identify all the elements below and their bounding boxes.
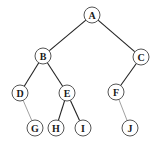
edge-b-d [24, 63, 39, 86]
binary-tree-diagram: ABCDEFGHIJ [0, 0, 162, 148]
edge-f-j [119, 99, 127, 120]
node-label: F [113, 87, 119, 98]
node-label: C [137, 52, 144, 63]
edge-d-g [23, 100, 32, 120]
tree-node-d: D [12, 85, 28, 101]
edge-e-i [70, 100, 79, 120]
edge-a-c [98, 20, 135, 52]
edge-c-f [121, 64, 137, 86]
node-label: G [31, 123, 39, 134]
nodes-group: ABCDEFGHIJ [12, 7, 149, 136]
node-label: A [88, 10, 96, 21]
node-label: E [64, 88, 71, 99]
node-label: D [16, 88, 23, 99]
tree-node-i: I [75, 120, 91, 136]
tree-node-h: H [48, 120, 64, 136]
node-label: H [52, 123, 60, 134]
tree-node-c: C [133, 49, 149, 65]
node-label: B [40, 51, 47, 62]
edges-group [23, 20, 136, 121]
tree-node-f: F [108, 84, 124, 100]
tree-node-e: E [59, 85, 75, 101]
tree-node-a: A [84, 7, 100, 23]
tree-node-j: J [122, 120, 138, 136]
edge-b-e [47, 63, 62, 87]
node-label: I [81, 123, 85, 134]
edge-a-b [49, 20, 86, 51]
tree-node-b: B [35, 48, 51, 64]
edge-e-h [58, 101, 64, 121]
tree-node-g: G [27, 120, 43, 136]
node-label: J [128, 123, 133, 134]
